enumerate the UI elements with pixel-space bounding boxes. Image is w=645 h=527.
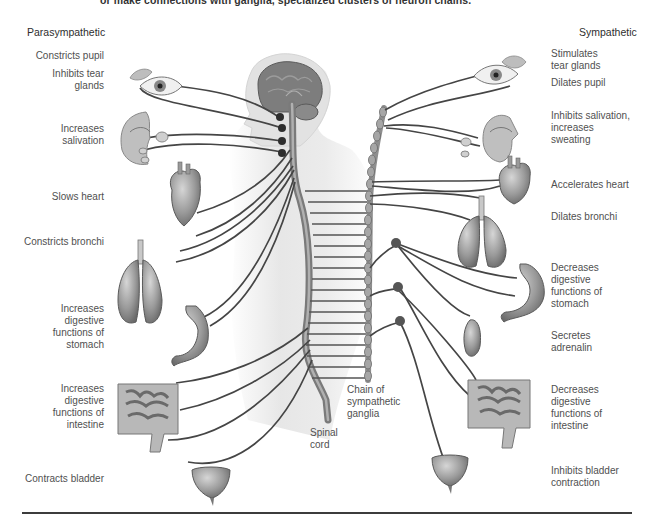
stomach-icon-left [172,306,209,366]
eye-icon-right [474,56,526,84]
intestine-icon-right [468,380,530,448]
label-inhibits-salivation: Inhibits salivation,increasessweating [551,110,630,146]
label-inhibits-bladder-contraction: Inhibits bladdercontraction [551,465,619,489]
lungs-icon-left [118,240,162,323]
label-contracts-bladder: Contracts bladder [0,473,104,485]
label-increases-salivation: Increasessalivation [0,123,104,147]
stomach-icon-right [501,264,544,322]
label-decreases-intestine-function: Decreasesdigestivefunctions ofintestine [551,384,602,432]
label-spinal-cord: Spinalcord [310,427,338,451]
label-chain-of-sympathetic-ganglia: Chain ofsympatheticganglia [347,384,400,420]
label-decreases-stomach-function: Decreasesdigestivefunctions ofstomach [551,262,602,310]
label-inhibits-tear-glands: Inhibits tearglands [0,68,104,92]
bottom-divider [22,512,632,514]
label-secretes-adrenalin: Secretesadrenalin [551,330,592,354]
salivary-face-icon-right [461,115,518,162]
label-constricts-pupil: Constricts pupil [0,50,104,62]
bladder-icon-right [432,455,468,494]
bladder-icon-left [192,467,230,506]
label-dilates-pupil: Dilates pupil [551,77,605,89]
label-stimulates-tear-glands: Stimulatestear glands [551,48,600,72]
heart-icon-right [499,156,530,204]
label-constricts-bronchi: Constricts bronchi [0,236,104,248]
label-increases-intestine-function: Increasesdigestivefunctions ofintestine [0,383,104,431]
adrenal-gland-icon [464,320,481,356]
label-slows-heart: Slows heart [0,191,104,203]
intestine-icon-left [118,384,178,452]
lungs-icon-right [458,196,506,267]
label-accelerates-heart: Accelerates heart [551,179,629,191]
label-dilates-bronchi: Dilates bronchi [551,211,617,223]
eye-icon-left [130,69,182,95]
heart-icon-left [170,162,200,226]
salivary-face-icon-left [121,112,168,164]
label-increases-stomach-function: Increasesdigestivefunctions ofstomach [0,303,104,351]
